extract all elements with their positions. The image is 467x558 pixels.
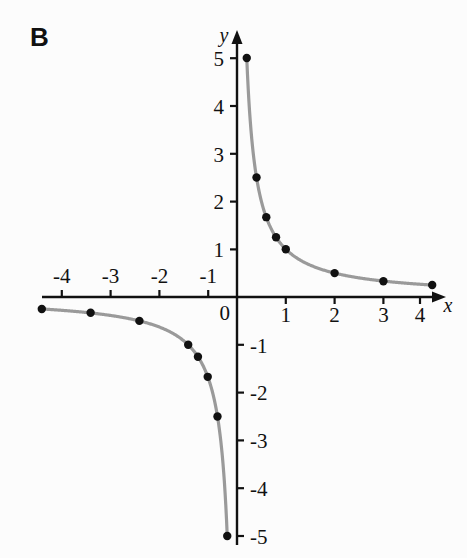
y-label-1: 1 — [214, 238, 225, 262]
y-axis-label: y — [218, 24, 229, 47]
data-point — [282, 245, 290, 253]
y-label-2: 2 — [214, 190, 225, 214]
data-point — [262, 213, 270, 221]
y-label-4: 4 — [214, 95, 225, 119]
x-label-3: 3 — [378, 303, 389, 327]
curve-right-branch — [247, 58, 432, 285]
data-point — [252, 173, 260, 181]
data-point — [272, 233, 280, 241]
data-point — [86, 309, 94, 317]
y-label-3: 3 — [214, 143, 225, 167]
data-point — [379, 277, 387, 285]
x-label-2: 2 — [329, 303, 340, 327]
y-label--3: -3 — [250, 429, 268, 453]
curve-left-branch — [42, 309, 227, 536]
x-label--3: -3 — [102, 264, 120, 288]
data-point — [428, 281, 436, 289]
origin-label: 0 — [220, 301, 231, 325]
data-point — [330, 269, 338, 277]
y-axis-arrow-icon — [232, 30, 243, 44]
hyperbola-plot: -4 -3 -2 -1 1 2 3 4 5 4 3 2 1 -1 -2 -3 -… — [0, 0, 467, 558]
y-label-5: 5 — [214, 47, 225, 71]
x-axis-label: x — [443, 294, 453, 316]
x-label--1: -1 — [199, 264, 217, 288]
data-points-left-branch — [38, 305, 232, 540]
data-point — [135, 317, 143, 325]
x-tick-labels: -4 -3 -2 -1 1 2 3 4 — [53, 264, 426, 327]
y-label--4: -4 — [250, 477, 268, 501]
x-label-4: 4 — [415, 303, 426, 327]
data-point — [243, 54, 251, 62]
y-label--5: -5 — [250, 525, 268, 549]
data-point — [213, 412, 221, 420]
data-point — [204, 373, 212, 381]
x-label--2: -2 — [151, 264, 169, 288]
figure-panel: B — [0, 0, 467, 558]
y-label--1: -1 — [250, 334, 268, 358]
data-point — [184, 341, 192, 349]
x-label-1: 1 — [281, 303, 292, 327]
data-point — [223, 532, 231, 540]
data-point — [194, 353, 202, 361]
x-label--4: -4 — [53, 264, 71, 288]
data-point — [38, 305, 46, 313]
y-label--2: -2 — [250, 381, 268, 405]
data-points-right-branch — [243, 54, 437, 289]
